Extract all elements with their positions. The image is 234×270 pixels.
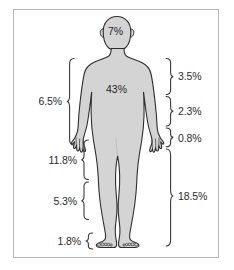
torso-and-limbs: [72, 49, 164, 248]
body-silhouette: [72, 17, 164, 248]
label-thigh-percentage: 11.8%: [30, 154, 77, 166]
brace-group-right: [166, 59, 173, 247]
brace-hand: [166, 128, 173, 147]
brace-lower-leg: [81, 182, 88, 220]
label-whole-leg-percentage: 18.5%: [178, 190, 207, 202]
brace-whole-leg: [166, 149, 173, 246]
label-lower-leg-percentage: 5.3%: [33, 195, 77, 207]
body-surface-area-figure: 7% 43% 3.5% 2.3% 0.8% 18.5% 6.5% 11.8% 5…: [0, 0, 234, 270]
label-forearm-percentage: 2.3%: [178, 105, 202, 117]
brace-foot: [86, 233, 93, 249]
label-hand-percentage: 0.8%: [178, 132, 202, 144]
label-whole-arm-percentage: 6.5%: [22, 95, 62, 107]
brace-upper-arm: [166, 59, 173, 95]
label-head-percentage: 7%: [108, 25, 123, 37]
brace-forearm: [166, 97, 173, 127]
label-foot-percentage: 1.8%: [37, 235, 81, 247]
label-torso-percentage: 43%: [106, 83, 127, 95]
label-upper-arm-percentage: 3.5%: [178, 70, 202, 82]
brace-whole-arm: [67, 59, 74, 146]
